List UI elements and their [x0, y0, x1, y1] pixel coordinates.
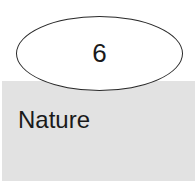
diagram: 6 Nature — [0, 0, 195, 181]
category-label: Nature — [18, 106, 90, 134]
node-number: 6 — [16, 16, 183, 91]
